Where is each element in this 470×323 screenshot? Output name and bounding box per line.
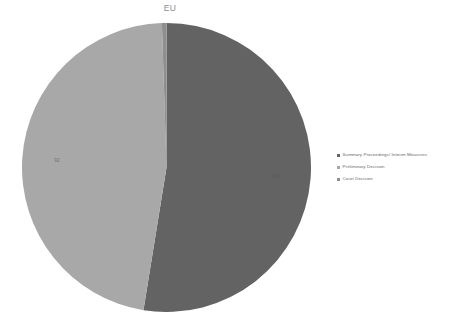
pie-chart-figure: EU 10392 Summary Proceedings/ Interim Me…: [0, 0, 470, 323]
pie-svg: 10392: [22, 23, 311, 312]
legend-marker-icon: [337, 166, 340, 169]
legend-item-court-decision[interactable]: Court Decision: [337, 174, 467, 185]
pie-slice-data-label: 92: [54, 158, 60, 163]
legend-item-summary-proceedings[interactable]: Summary Proceedings/ Interim Measures: [337, 150, 467, 161]
pie-plot-area: 10392: [22, 23, 311, 312]
chart-title: EU: [0, 3, 340, 13]
pie-slice-group: [22, 23, 311, 312]
legend-item-preliminary-decision[interactable]: Preliminary Decision: [337, 162, 467, 173]
legend-marker-icon: [337, 178, 340, 181]
pie-slice: [22, 23, 167, 310]
legend-item-label: Summary Proceedings/ Interim Measures: [343, 153, 427, 157]
pie-slice-data-label: 103: [272, 174, 280, 179]
legend-item-label: Preliminary Decision: [343, 165, 385, 169]
legend-item-label: Court Decision: [343, 177, 373, 181]
legend-marker-icon: [337, 154, 340, 157]
chart-legend: Summary Proceedings/ Interim Measures Pr…: [337, 150, 467, 186]
pie-slice: [143, 23, 311, 312]
